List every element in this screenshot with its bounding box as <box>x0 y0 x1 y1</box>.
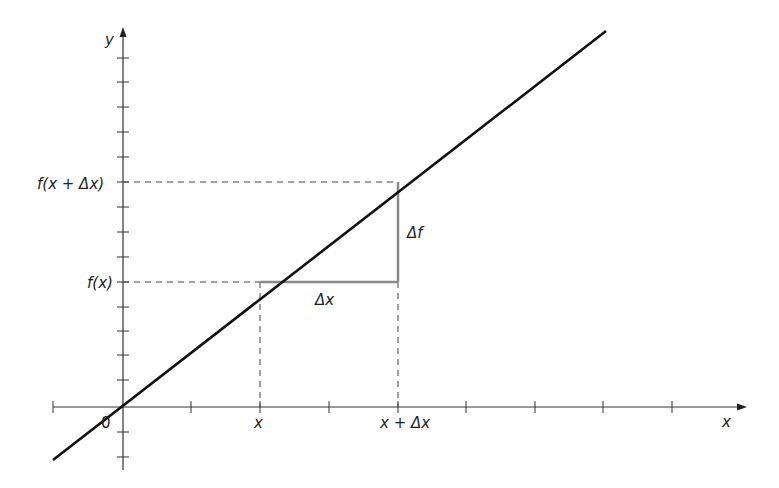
x-axis <box>53 401 747 413</box>
y-axis-label: y <box>104 31 115 49</box>
slope-triangle <box>260 182 398 282</box>
delta-f-label: Δf <box>406 224 425 242</box>
x-axis-arrow-icon <box>737 404 747 411</box>
x-axis-label: x <box>721 413 731 431</box>
fx-plus-dx-label: f(x + Δx) <box>37 175 104 193</box>
x-marker-label: x <box>253 414 263 432</box>
diagram-canvas: y x 0 x x + Δx f(x + Δx) f(x) Δx Δf <box>0 0 779 488</box>
x-plus-dx-marker-label: x + Δx <box>379 414 430 432</box>
origin-label: 0 <box>101 414 111 432</box>
delta-x-label: Δx <box>314 291 334 309</box>
fx-label: f(x) <box>87 274 113 292</box>
y-axis-arrow-icon <box>120 27 127 37</box>
function-line <box>53 31 606 460</box>
